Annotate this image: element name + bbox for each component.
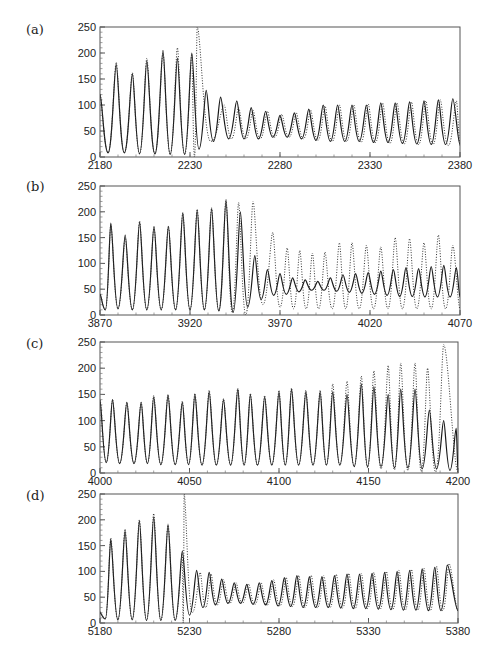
y-tick-label: 100 [78,565,96,577]
x-tick-label: 5330 [356,625,380,637]
y-tick-label: 150 [78,73,96,85]
panel-b: 05010015020025038703920397040204070 [78,180,473,329]
x-tick-label: 3920 [178,317,202,329]
x-tick-label: 2330 [358,159,382,171]
dotted-series-line [100,27,460,157]
panel-a: 05010015020025021802230228023302380 [78,21,473,171]
y-tick-label: 50 [84,125,96,137]
x-tick-label: 5380 [446,625,470,637]
x-tick-label: 4050 [177,475,201,487]
dotted-series-line [100,199,460,315]
solid-series-line [100,517,458,620]
x-tick-label: 4020 [358,317,382,329]
y-tick-label: 100 [78,257,96,269]
x-tick-label: 4200 [446,475,470,487]
dotted-series-line [100,345,458,472]
y-tick-label: 250 [78,488,96,500]
panel-c: 05010015020025040004050410041504200 [78,336,471,487]
y-tick-label: 50 [84,591,96,603]
y-tick-label: 50 [84,441,96,453]
figure-canvas: 0501001502002502180223022802330238005010… [0,0,493,658]
x-tick-label: 3970 [268,317,292,329]
axes-frame [100,27,460,157]
axes-frame [100,186,460,315]
y-tick-label: 250 [78,21,96,33]
x-tick-label: 5230 [177,625,201,637]
axes-frame [100,342,458,473]
y-tick-label: 150 [78,232,96,244]
y-tick-label: 250 [78,180,96,192]
x-tick-label: 2380 [448,159,472,171]
y-tick-label: 200 [78,47,96,59]
x-tick-label: 5180 [88,625,112,637]
y-tick-label: 200 [78,514,96,526]
y-tick-label: 100 [78,99,96,111]
x-tick-label: 2180 [88,159,112,171]
x-tick-label: 5280 [267,625,291,637]
x-tick-label: 3870 [88,317,112,329]
x-tick-label: 2230 [178,159,202,171]
y-tick-label: 150 [78,540,96,552]
x-tick-label: 4100 [267,475,291,487]
axes-frame [100,494,458,623]
dotted-series-line [100,494,458,623]
y-tick-label: 250 [78,336,96,348]
y-tick-label: 150 [78,388,96,400]
y-tick-label: 100 [78,415,96,427]
y-tick-label: 200 [78,362,96,374]
x-tick-label: 4150 [356,475,380,487]
y-tick-label: 200 [78,206,96,218]
solid-series-line [100,200,460,312]
y-tick-label: 50 [84,283,96,295]
panel-d: 05010015020025051805230528053305380 [78,488,471,637]
x-tick-label: 4000 [88,475,112,487]
x-tick-label: 2280 [268,159,292,171]
x-tick-label: 4070 [448,317,472,329]
